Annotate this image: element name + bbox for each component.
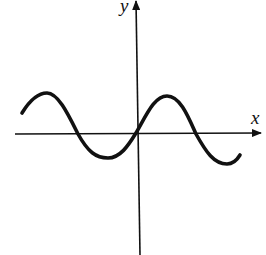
sine-curve <box>22 93 240 164</box>
y-axis-label: y <box>118 0 129 16</box>
sine-graph: y x <box>0 0 266 255</box>
x-axis-label: x <box>250 107 260 128</box>
